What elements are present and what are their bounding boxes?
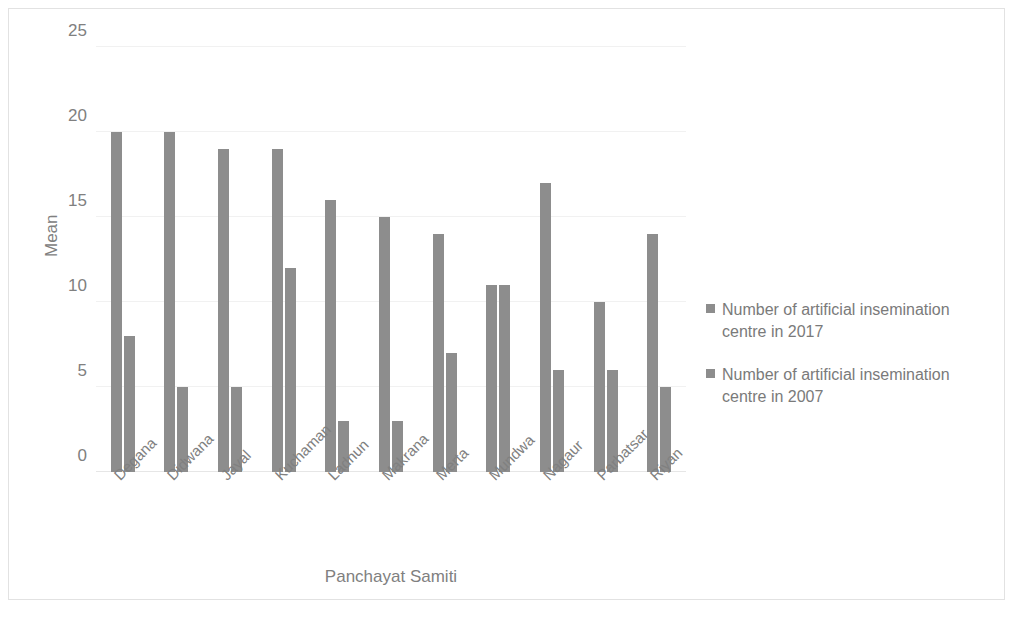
- legend-swatch-icon: [706, 304, 715, 313]
- y-axis-tick-label: 15: [68, 192, 87, 209]
- legend-item: Number of artificial insemination centre…: [706, 364, 1001, 407]
- chart-legend: Number of artificial insemination centre…: [706, 299, 1001, 429]
- bar: [499, 285, 510, 472]
- bar-group: [111, 47, 135, 472]
- bar-group: [433, 47, 457, 472]
- chart-frame: Mean 0510152025 DeganaDidwanaJayalKucham…: [8, 8, 1005, 600]
- y-axis-tick-label: 25: [68, 22, 87, 39]
- bar: [540, 183, 551, 472]
- bar: [164, 132, 175, 472]
- y-axis-tick-label: 20: [68, 107, 87, 124]
- bar-group: [594, 47, 618, 472]
- bar-group: [272, 47, 296, 472]
- bar-group: [486, 47, 510, 472]
- legend-item: Number of artificial insemination centre…: [706, 299, 1001, 342]
- y-axis-tick-label: 10: [68, 277, 87, 294]
- plot-area: 0510152025: [96, 47, 686, 472]
- legend-label: Number of artificial insemination centre…: [722, 364, 994, 407]
- x-axis-ticks: DeganaDidwanaJayalKuchamanLadnunMakranaM…: [96, 472, 686, 562]
- bar: [594, 302, 605, 472]
- legend-swatch-icon: [706, 369, 715, 378]
- bar: [272, 149, 283, 472]
- bar: [433, 234, 444, 472]
- legend-label: Number of artificial insemination centre…: [722, 299, 994, 342]
- bar-group: [325, 47, 349, 472]
- bar-group: [540, 47, 564, 472]
- y-axis-title: Mean: [43, 214, 60, 257]
- bar: [285, 268, 296, 472]
- bar-group: [647, 47, 671, 472]
- bar: [486, 285, 497, 472]
- bar: [218, 149, 229, 472]
- y-axis-tick-label: 5: [78, 362, 87, 379]
- bar-group: [164, 47, 188, 472]
- bar-group: [218, 47, 242, 472]
- bar: [379, 217, 390, 472]
- x-axis-title: Panchayat Samiti: [96, 568, 686, 585]
- y-axis-tick-label: 0: [78, 447, 87, 464]
- bar-group: [379, 47, 403, 472]
- bar: [111, 132, 122, 472]
